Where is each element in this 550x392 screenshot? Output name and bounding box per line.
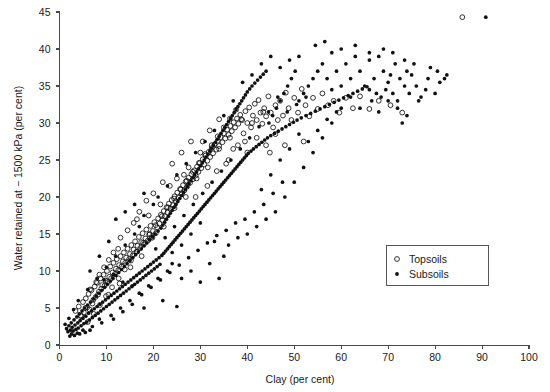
data-point-subsoil: [426, 77, 430, 81]
data-point-subsoil: [330, 88, 334, 92]
data-point-subsoil: [292, 180, 296, 184]
data-point-subsoil: [438, 80, 442, 84]
y-tick-label: 0: [45, 339, 51, 351]
data-point-subsoil: [314, 109, 318, 113]
data-point-subsoil: [335, 69, 339, 73]
data-point-subsoil: [255, 225, 259, 229]
data-point-subsoil: [180, 243, 184, 247]
data-point-subsoil: [227, 243, 231, 247]
data-point-subsoil: [213, 240, 217, 244]
y-tick-label: 5: [45, 302, 51, 314]
data-point-subsoil: [328, 103, 332, 107]
data-point-subsoil: [276, 95, 280, 99]
data-point-subsoil: [365, 85, 369, 89]
data-point-subsoil: [215, 234, 219, 238]
data-point-subsoil: [112, 317, 116, 321]
data-point-subsoil: [264, 217, 268, 221]
data-point-subsoil: [88, 269, 92, 273]
data-point-subsoil: [133, 203, 137, 207]
data-point-subsoil: [379, 95, 383, 99]
data-point-subsoil: [128, 259, 132, 263]
data-point-subsoil: [161, 299, 165, 303]
data-point-subsoil: [266, 136, 270, 140]
data-point-subsoil: [84, 314, 88, 318]
data-point-subsoil: [145, 241, 149, 245]
x-tick-label: 10: [101, 351, 113, 363]
data-point-subsoil: [191, 203, 195, 207]
data-point-subsoil: [175, 305, 179, 309]
data-point-subsoil: [419, 95, 423, 99]
data-point-subsoil: [117, 271, 121, 275]
data-point-subsoil: [98, 254, 102, 258]
data-point-subsoil: [484, 15, 488, 19]
data-point-subsoil: [156, 195, 160, 199]
data-point-subsoil: [339, 106, 343, 110]
data-point-subsoil: [414, 84, 418, 88]
data-point-subsoil: [386, 80, 390, 84]
data-point-subsoil: [72, 308, 76, 312]
data-point-subsoil: [78, 332, 82, 336]
data-point-subsoil: [403, 58, 407, 62]
data-point-subsoil: [91, 297, 95, 301]
data-point-subsoil: [276, 129, 280, 133]
data-point-subsoil: [77, 312, 81, 316]
data-point-subsoil: [106, 282, 110, 286]
scatter-plot-figure: 051015202530354045 010203040506070809010…: [0, 0, 550, 392]
data-point-subsoil: [94, 294, 98, 298]
data-point-subsoil: [325, 117, 329, 121]
y-tick-label: 30: [39, 117, 51, 129]
data-point-subsoil: [417, 99, 421, 103]
data-point-subsoil: [283, 195, 287, 199]
data-point-subsoil: [149, 285, 153, 289]
data-point-subsoil: [168, 271, 172, 275]
data-point-subsoil: [271, 191, 275, 195]
data-point-subsoil: [238, 147, 242, 151]
data-point-subsoil: [123, 210, 127, 214]
data-point-subsoil: [250, 73, 254, 77]
y-tick-label: 20: [39, 191, 51, 203]
data-point-subsoil: [260, 62, 264, 66]
legend-label-subsoils: Subsoils: [409, 268, 449, 280]
data-point-subsoil: [309, 112, 313, 116]
x-tick-label: 30: [195, 351, 207, 363]
data-point-subsoil: [67, 324, 71, 328]
data-point-subsoil: [89, 300, 93, 304]
data-point-subsoil: [220, 169, 224, 173]
data-point-subsoil: [206, 241, 210, 245]
data-point-subsoil: [284, 125, 288, 129]
data-point-subsoil: [170, 251, 174, 255]
data-point-subsoil: [391, 51, 395, 55]
data-point-subsoil: [203, 140, 207, 144]
data-point-subsoil: [264, 69, 268, 73]
data-point-subsoil: [297, 99, 301, 103]
data-point-subsoil: [339, 84, 343, 88]
y-tick-label: 35: [39, 80, 51, 92]
data-point-subsoil: [252, 210, 256, 214]
data-point-subsoil: [86, 303, 90, 307]
data-point-subsoil: [323, 40, 327, 44]
data-point-subsoil: [125, 262, 129, 266]
data-point-subsoil: [152, 203, 156, 207]
data-point-subsoil: [114, 254, 118, 258]
data-point-subsoil: [140, 293, 144, 297]
y-tick-label: 45: [39, 6, 51, 18]
data-point-subsoil: [142, 244, 146, 248]
y-tick-label: 15: [39, 228, 51, 240]
data-point-subsoil: [349, 95, 353, 99]
data-point-subsoil: [353, 43, 357, 47]
data-point-subsoil: [262, 203, 266, 207]
data-point-subsoil: [299, 116, 303, 120]
data-point-subsoil: [130, 284, 134, 288]
data-point-subsoil: [386, 99, 390, 103]
data-point-subsoil: [122, 265, 126, 269]
data-point-subsoil: [97, 291, 101, 295]
y-tick-label: 25: [39, 154, 51, 166]
x-tick-label: 60: [335, 351, 347, 363]
data-point-subsoil: [407, 92, 411, 96]
data-point-subsoil: [353, 55, 357, 59]
x-tick-label: 70: [382, 351, 394, 363]
data-point-subsoil: [68, 334, 72, 338]
data-point-subsoil: [170, 262, 174, 266]
data-point-subsoil: [306, 140, 310, 144]
data-point-subsoil: [86, 288, 90, 292]
